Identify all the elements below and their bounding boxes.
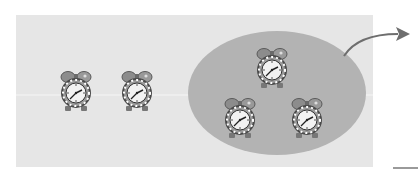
alarm-clock-icon — [290, 97, 324, 139]
alarm-clock-icon — [223, 97, 257, 139]
curved-arrow-icon — [340, 22, 418, 62]
alarm-clock-icon — [255, 47, 289, 89]
alarm-clock-icon — [120, 70, 154, 112]
answer-blank-line — [393, 167, 418, 169]
alarm-clock-icon — [59, 70, 93, 112]
